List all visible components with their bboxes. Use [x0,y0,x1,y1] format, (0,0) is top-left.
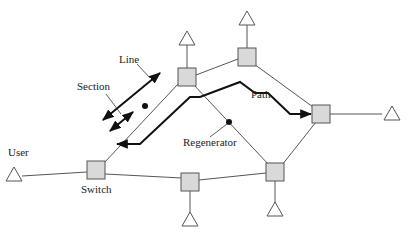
switch-label: Switch [81,184,112,195]
network-diagram [0,0,414,238]
path-line [117,82,311,144]
switch-node-d[interactable] [266,163,284,181]
switch-node-c[interactable] [312,105,330,123]
regenerator-dot [226,119,232,125]
terminals [6,11,400,226]
user-label: User [8,147,29,158]
switch-node-b[interactable] [238,48,256,66]
section-label: Section [77,81,110,92]
switch-node[interactable] [87,161,105,179]
line-label: Line [119,54,139,65]
regenerator-label: Regenerator [183,137,237,148]
terminal-triangle-icon[interactable] [182,212,198,226]
terminal-triangle-icon[interactable] [239,11,255,25]
switch-node-e[interactable] [181,173,199,191]
terminal-triangle-icon[interactable] [179,31,195,45]
switch-node-a[interactable] [178,68,196,86]
terminal-triangle-icon[interactable] [384,106,400,120]
terminal-triangle-icon[interactable] [267,202,283,216]
regenerator-dot [142,103,148,109]
user-triangle-icon[interactable] [6,167,22,181]
network-links [104,59,316,180]
section-arrow [110,112,133,131]
path-label: Path [251,89,271,100]
